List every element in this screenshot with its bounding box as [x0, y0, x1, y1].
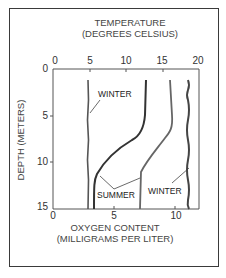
summer-label: SUMMER: [97, 190, 135, 200]
winter-oxygen-label: WINTER: [148, 186, 182, 196]
winter-oxygen-line: [187, 80, 189, 209]
chart-plot: [0, 0, 226, 278]
winter-temperature-label: WINTER: [98, 89, 132, 99]
winter-temperature-line: [88, 80, 89, 209]
